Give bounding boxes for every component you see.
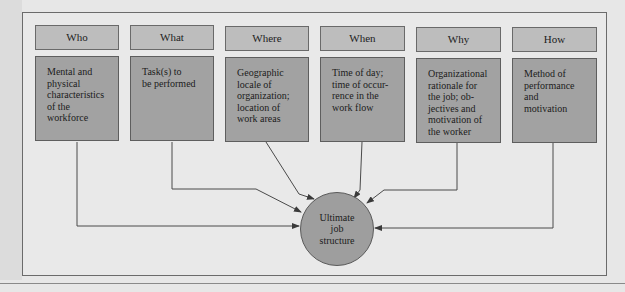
header-what: What xyxy=(130,25,214,50)
edge-who xyxy=(77,142,299,226)
header-who: Who xyxy=(35,25,119,50)
description-how: Method of performance and motivation xyxy=(512,58,597,143)
description-why: Organizational rationale for the job; ob… xyxy=(416,58,501,143)
description-when: Time of day; time of occur- rence in the… xyxy=(320,57,405,142)
description-what: Task(s) to be performed xyxy=(130,56,214,141)
edge-where xyxy=(266,142,314,199)
edge-how xyxy=(375,142,553,228)
header-where: Where xyxy=(225,26,309,51)
header-how: How xyxy=(512,27,597,52)
target-node-ultimate-job-structure: Ultimate job structure xyxy=(300,192,374,266)
header-why: Why xyxy=(416,27,501,52)
edge-when xyxy=(354,142,362,198)
description-where: Geographic locale of organization; locat… xyxy=(225,57,309,142)
header-when: When xyxy=(320,26,405,51)
edge-what xyxy=(172,142,301,212)
target-label: Ultimate job structure xyxy=(320,212,355,247)
description-who: Mental and physical characteristics of t… xyxy=(35,56,119,141)
edge-why xyxy=(367,142,457,203)
